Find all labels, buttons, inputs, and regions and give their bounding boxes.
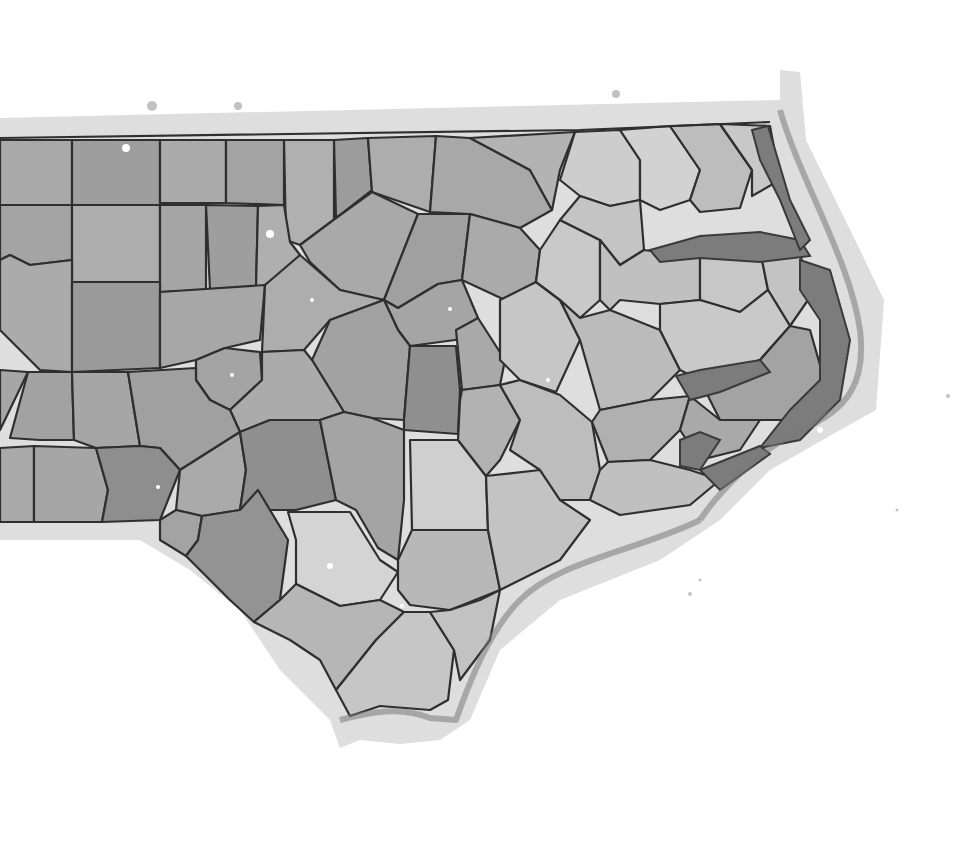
county-region [160, 205, 206, 292]
county-region [72, 282, 160, 372]
county-region [206, 205, 258, 290]
county-region [34, 446, 108, 522]
county-region [72, 205, 160, 282]
county-region [0, 446, 34, 522]
county-region [160, 140, 226, 203]
county-region [226, 140, 284, 205]
county-region [72, 140, 160, 205]
county-region [0, 140, 72, 205]
county-region [404, 346, 460, 434]
north-carolina-county-map [0, 0, 960, 858]
map-canvas [0, 0, 960, 858]
